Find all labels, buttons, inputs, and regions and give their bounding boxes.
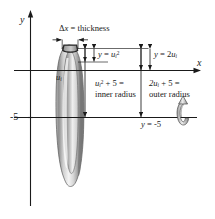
inner-radius-line1: ui2 + 5 =	[95, 78, 136, 89]
outer-radius-label: 2ui + 5 = outer radius	[149, 78, 190, 99]
torus-solid	[56, 45, 84, 187]
y-tick-label-minus5: -5	[10, 111, 18, 122]
outer-curve-eq: = 2	[158, 49, 171, 59]
rotation-arrow-icon	[177, 96, 189, 125]
inner-radius-label: ui2 + 5 = inner radius	[95, 78, 136, 99]
outer-curve-label: y = 2ui	[154, 50, 177, 60]
outer-radius-line1: 2ui + 5 =	[149, 78, 190, 89]
y-axis-label: y	[20, 14, 24, 25]
representative-shell-element	[63, 45, 78, 52]
thickness-label: Δx = thickness	[59, 24, 110, 34]
x-axis-arrowhead	[194, 68, 202, 73]
y-axis-arrowhead	[28, 10, 33, 18]
inner-curve-eq: =	[102, 49, 111, 59]
outer-curve-sub: i	[176, 53, 177, 59]
outer-radius-line2: outer radius	[149, 89, 190, 99]
thickness-equals: = thickness	[68, 23, 109, 33]
coordinate-axes	[14, 10, 201, 206]
shell-radius-marker-label: ui	[56, 73, 62, 83]
shell-element-box	[63, 45, 78, 52]
outer-radius-base: 2u	[149, 78, 158, 88]
inner-curve-label: y = ui2	[98, 50, 119, 60]
outer-radius-rest: + 5 =	[159, 78, 179, 88]
inner-radius-rest: + 5 =	[103, 78, 123, 88]
axis-of-revolution-eq: =	[145, 119, 154, 129]
axis-of-revolution-value: -5	[154, 119, 161, 129]
x-axis-label: x	[197, 57, 201, 68]
torus-shell-method-figure: y x -5 Δx = thickness y = ui2 y = 2ui ui…	[0, 0, 215, 219]
shell-radius-sub: i	[60, 76, 61, 82]
axis-of-revolution-label: y = -5	[141, 120, 161, 130]
inner-curve-sup: 2	[117, 50, 120, 56]
inner-radius-line2: inner radius	[95, 89, 136, 99]
